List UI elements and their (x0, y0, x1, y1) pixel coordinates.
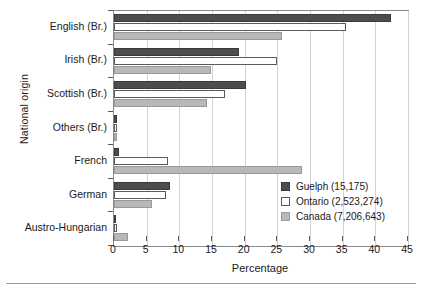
legend-item-canada[interactable]: Canada (7,206,643) (281, 209, 385, 224)
legend-label: Guelph (15,175) (296, 179, 368, 194)
y-tick-label-6: Austro-Hungarian (0, 222, 107, 233)
chart-legend: Guelph (15,175)Ontario (2,523,274)Canada… (281, 179, 385, 224)
bar-group (114, 112, 408, 146)
bar-group (114, 45, 408, 79)
chart-figure: National origin English (Br.)Irish (Br.)… (0, 0, 422, 293)
bar-ontario (114, 57, 277, 65)
bar-canada (114, 66, 211, 74)
x-tick-mark (407, 236, 408, 241)
bar-canada (114, 166, 302, 174)
bar-guelph (114, 48, 239, 56)
bar-canada (114, 99, 207, 107)
bar-ontario (114, 224, 117, 232)
x-tick-mark (342, 236, 343, 241)
bar-group (114, 11, 408, 45)
x-tick-label-9: 45 (387, 243, 422, 255)
bar-guelph (114, 81, 246, 89)
y-tick-mark (108, 178, 113, 179)
bottom-divider (6, 283, 416, 284)
y-tick-mark (108, 44, 113, 45)
x-tick-mark (276, 236, 277, 241)
y-tick-label-5: German (0, 189, 107, 200)
legend-item-guelph[interactable]: Guelph (15,175) (281, 179, 385, 194)
bar-canada (114, 133, 117, 141)
bar-ontario (114, 157, 168, 165)
bar-guelph (114, 14, 391, 22)
x-tick-mark (374, 236, 375, 241)
y-tick-label-1: Irish (Br.) (0, 54, 107, 65)
bar-ontario (114, 124, 117, 132)
legend-swatch-guelph-icon (281, 182, 290, 191)
x-tick-mark (146, 236, 147, 241)
legend-label: Ontario (2,523,274) (296, 194, 383, 209)
bar-guelph (114, 115, 117, 123)
x-tick-mark (211, 236, 212, 241)
y-tick-label-0: English (Br.) (0, 21, 107, 32)
y-tick-label-2: Scottish (Br.) (0, 88, 107, 99)
bar-canada (114, 200, 152, 208)
bar-guelph (114, 215, 116, 223)
y-tick-mark (108, 144, 113, 145)
legend-swatch-canada-icon (281, 212, 290, 221)
legend-item-ontario[interactable]: Ontario (2,523,274) (281, 194, 385, 209)
y-tick-label-4: French (0, 155, 107, 166)
gridline (408, 11, 409, 246)
y-tick-mark (108, 111, 113, 112)
bar-canada (114, 233, 128, 241)
legend-swatch-ontario-icon (281, 197, 290, 206)
x-tick-mark (178, 236, 179, 241)
y-tick-mark (108, 10, 113, 11)
bar-canada (114, 32, 282, 40)
bar-group (114, 78, 408, 112)
bar-guelph (114, 182, 170, 190)
x-axis-title: Percentage (113, 262, 407, 274)
bar-ontario (114, 90, 225, 98)
bar-guelph (114, 148, 119, 156)
bar-ontario (114, 23, 346, 31)
legend-label: Canada (7,206,643) (296, 209, 385, 224)
bar-group (114, 145, 408, 179)
x-tick-mark (113, 236, 114, 241)
bar-ontario (114, 191, 166, 199)
x-tick-mark (244, 236, 245, 241)
y-tick-mark (108, 211, 113, 212)
y-tick-mark (108, 77, 113, 78)
x-tick-mark (309, 236, 310, 241)
y-tick-label-3: Others (Br.) (0, 122, 107, 133)
